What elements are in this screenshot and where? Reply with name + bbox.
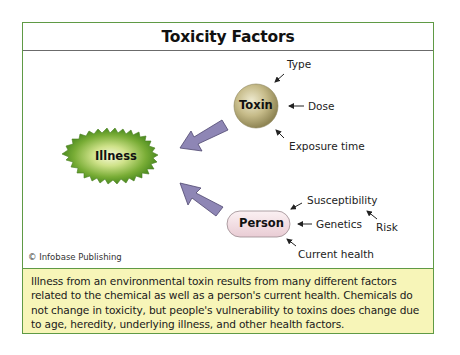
factor-type: Type bbox=[287, 58, 311, 70]
factor-current-health: Current health bbox=[298, 248, 374, 260]
factor-susceptibility: Susceptibility bbox=[307, 194, 377, 206]
toxin-label: Toxin bbox=[239, 98, 273, 112]
factor-dose: Dose bbox=[308, 100, 334, 112]
person-label: Person bbox=[239, 216, 284, 230]
factor-exposure-time: Exposure time bbox=[289, 140, 365, 152]
toxin-to-illness-arrow bbox=[180, 120, 228, 151]
person-to-illness-arrow bbox=[180, 183, 223, 216]
factor-genetics: Genetics bbox=[316, 218, 362, 230]
illness-label: Illness bbox=[95, 149, 137, 163]
diagram-graphics bbox=[0, 0, 460, 355]
factor-risk: Risk bbox=[376, 221, 398, 233]
